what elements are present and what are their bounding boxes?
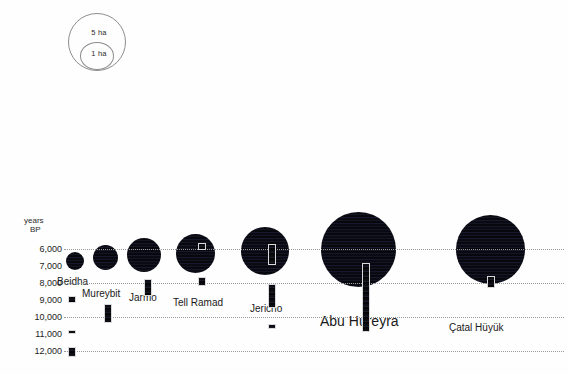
y-tick-6000: 6,000: [2, 244, 62, 254]
y-tick-12000: 12,000: [2, 346, 62, 356]
gridline-10000: [64, 317, 564, 318]
y-tick-8000: 8,000: [2, 278, 62, 288]
size-legend: 5 ha 1 ha: [68, 13, 130, 75]
legend-label-1ha: 1 ha: [68, 49, 130, 58]
timeline-plot-area: [64, 214, 569, 374]
span-jarmo-1: [144, 279, 152, 296]
occupation-timeline-chart: years BP 6,000 7,000 8,000 9,000 10,000 …: [0, 214, 569, 374]
span-tell-ramad-2: [198, 277, 206, 286]
y-tick-10000: 10,000: [2, 312, 62, 322]
span-jericho-1: [268, 244, 276, 265]
gridline-6000: [64, 249, 564, 250]
y-axis-ticks: 6,000 7,000 8,000 9,000 10,000 11,000 12…: [0, 214, 62, 374]
y-tick-9000: 9,000: [2, 295, 62, 305]
span-beidha-2: [68, 330, 76, 334]
span-beidha-3: [68, 347, 76, 357]
y-tick-7000: 7,000: [2, 261, 62, 271]
gridline-12000: [64, 351, 564, 352]
span-jericho-2: [268, 284, 276, 308]
span-beidha-1: [68, 296, 76, 303]
figure-root: 5 ha 1 ha Beidha Mureybit Jarmo Tell Ram…: [0, 0, 569, 374]
span-mureybit-1: [104, 304, 112, 323]
y-tick-11000: 11,000: [2, 329, 62, 339]
span-tell-ramad-1: [198, 243, 206, 250]
settlement-size-bubbles: Beidha Mureybit Jarmo Tell Ramad Jericho…: [0, 82, 569, 210]
span-catal-huyuk-1: [487, 276, 495, 288]
legend-label-5ha: 5 ha: [68, 28, 130, 37]
span-jericho-3: [268, 324, 276, 329]
span-abu-hureyra-1: [362, 263, 370, 332]
